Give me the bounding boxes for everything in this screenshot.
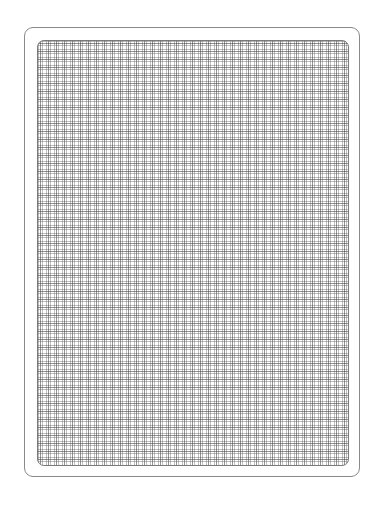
grid-pattern-area	[37, 40, 349, 466]
